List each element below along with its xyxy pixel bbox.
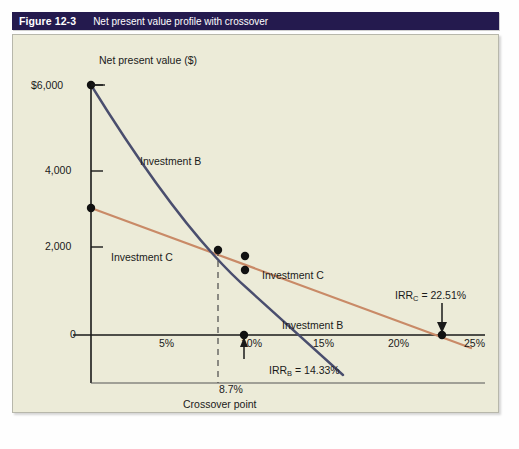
x-tick-label-25: 25%: [464, 338, 485, 349]
y-axis-title: Net present value ($): [99, 55, 197, 66]
annotation-irr-c: IRRC = 22.51%: [395, 290, 466, 303]
irr-b-prefix: IRR: [269, 364, 287, 376]
x-tick-label-10: 10%: [241, 338, 262, 349]
y-tick-label-6000: $6,000: [31, 80, 63, 91]
marker-c-at-irrb: [241, 252, 249, 260]
annotation-crossover-rate: 8.7%: [219, 384, 243, 395]
irr-c-arrow: [437, 303, 447, 333]
marker-crossover-point: [214, 246, 222, 254]
npv-profile-chart: [13, 35, 498, 412]
figure-caption: Net present value profile with crossover: [76, 16, 268, 27]
marker-b-at-12pct: [241, 266, 249, 274]
investment-b-curve: [91, 85, 343, 375]
irr-b-value: = 14.33%: [292, 364, 340, 376]
series-label-investment-b-upper: Investment B: [140, 156, 201, 167]
figure-page: Figure 12-3 Net present value profile wi…: [0, 0, 519, 449]
x-tick-label-5: 5%: [159, 338, 174, 349]
series-label-investment-b-lower: Investment B: [282, 320, 343, 331]
annotation-irr-b: IRRB = 14.33%: [269, 365, 340, 378]
y-tick-label-2000: 2,000: [45, 241, 71, 252]
marker-c-intercept: [87, 204, 95, 212]
irr-c-prefix: IRR: [395, 289, 413, 301]
chart-plot-area: Net present value ($) $6,000 4,000 2,000…: [13, 35, 498, 412]
y-tick-label-0: 0: [70, 329, 76, 340]
annotation-crossover-caption: Crossover point: [183, 399, 257, 410]
x-tick-label-20: 20%: [388, 338, 409, 349]
axis-group: [73, 81, 485, 383]
series-label-investment-c-mid: Investment C: [262, 270, 324, 281]
figure-number: Figure 12-3: [12, 15, 76, 27]
y-tick-label-4000: 4,000: [45, 165, 71, 176]
x-tick-label-15: 15%: [313, 338, 334, 349]
figure-title-bar: Figure 12-3 Net present value profile wi…: [12, 12, 499, 30]
chart-frame: Net present value ($) $6,000 4,000 2,000…: [12, 34, 499, 413]
series-label-investment-c-upper: Investment C: [111, 252, 173, 263]
irr-c-value: = 22.51%: [419, 289, 467, 301]
